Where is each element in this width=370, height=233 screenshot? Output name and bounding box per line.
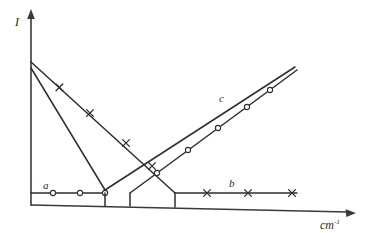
baseline-connectors (105, 193, 175, 207)
x-axis-label-superscript: -1 (334, 218, 340, 226)
series-c-lower-marker (244, 104, 249, 109)
series-c-upper-descending-line (31, 62, 175, 193)
series-a-marker (77, 190, 82, 195)
x-axis-line (31, 205, 348, 212)
series-c-upper-marker (149, 163, 156, 170)
line-chart-plot: I a b c cm-1 (0, 0, 370, 233)
series-c-upper-marker (56, 84, 63, 91)
figure-container: I a b c cm-1 (0, 0, 370, 233)
series-c-upper-marker (123, 140, 130, 147)
series-c-lower-descending-line (31, 68, 105, 190)
series-c-lower-marker (185, 147, 190, 152)
series-c-upper-ascending-line (105, 67, 295, 190)
series-a-marker (50, 190, 55, 195)
series-c-lower-marker (215, 125, 220, 130)
x-axis-arrow-icon (346, 209, 356, 217)
series-c-lower-marker (267, 87, 272, 92)
x-axis-label-text: cm (320, 218, 334, 232)
series-c-lower-marker (154, 170, 159, 175)
series-c-lower-ascending (130, 70, 297, 193)
series-a (31, 190, 108, 195)
curve-label-a: a (43, 179, 49, 191)
x-axis-label: cm-1 (320, 218, 340, 232)
x-axis (31, 205, 356, 217)
y-axis-arrow-icon (27, 9, 35, 19)
curve-label-b: b (229, 177, 235, 189)
series-c-upper-ascending (105, 67, 295, 190)
y-axis (27, 9, 35, 205)
y-axis-label: I (14, 15, 20, 29)
curve-label-c: c (219, 92, 224, 104)
series-c-upper-descending (31, 62, 175, 193)
series-c-lower-descending (31, 68, 105, 190)
series-b (175, 190, 297, 197)
